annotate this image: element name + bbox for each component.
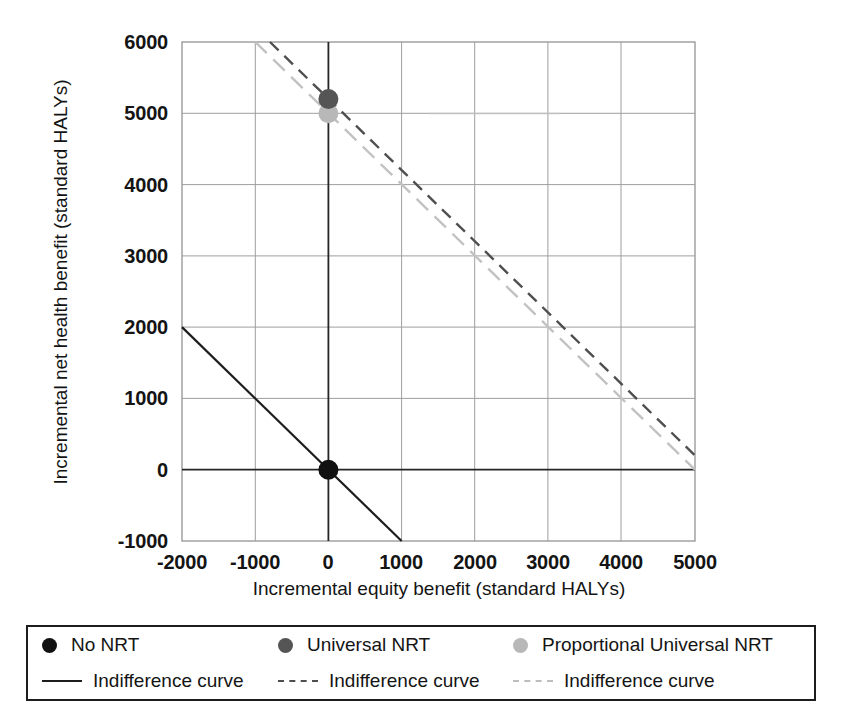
legend-marker-no-nrt-icon [42, 638, 57, 653]
xtick-label-minus1000: -1000 [230, 551, 280, 574]
ytick-label-0: 0 [98, 459, 168, 482]
legend-item-indifference-curve-dashed[interactable]: Indifference curve [278, 670, 513, 692]
xtick-label-2000: 2000 [453, 551, 497, 574]
legend-line-dashed-light-icon [513, 680, 553, 682]
ytick-label-4000: 4000 [98, 174, 168, 197]
legend-label-indifference-curve-dashed-light: Indifference curve [564, 670, 715, 692]
legend-label-indifference-curve-solid: Indifference curve [93, 670, 244, 692]
legend-row-markers: No NRT Universal NRT Proportional Univer… [28, 627, 814, 663]
xtick-label-3000: 3000 [526, 551, 570, 574]
ytick-label-6000: 6000 [98, 31, 168, 54]
plot-frame [182, 42, 695, 541]
xtick-label-4000: 4000 [599, 551, 643, 574]
xtick-label-minus2000: -2000 [157, 551, 207, 574]
ytick-label-1000: 1000 [98, 387, 168, 410]
chart-svg [0, 0, 848, 608]
xtick-label-0: 0 [323, 551, 334, 574]
chart-plot-area: 6000 5000 4000 3000 2000 1000 0 -1000 -2… [0, 0, 848, 608]
legend-line-solid-icon [42, 680, 82, 682]
data-point-universal-nrt[interactable] [318, 89, 338, 109]
legend-marker-proportional-universal-nrt-icon [513, 638, 528, 653]
legend-item-indifference-curve-solid[interactable]: Indifference curve [42, 670, 278, 692]
ytick-label-2000: 2000 [98, 316, 168, 339]
figure-root: 6000 5000 4000 3000 2000 1000 0 -1000 -2… [0, 0, 848, 718]
legend-item-proportional-universal-nrt[interactable]: Proportional Universal NRT [513, 634, 773, 656]
legend-row-curves: Indifference curve Indifference curve In… [28, 663, 814, 699]
ytick-label-3000: 3000 [98, 245, 168, 268]
legend-marker-universal-nrt-icon [278, 638, 293, 653]
chart-legend: No NRT Universal NRT Proportional Univer… [26, 625, 816, 701]
legend-label-proportional-universal-nrt: Proportional Universal NRT [542, 634, 773, 656]
y-axis-title: Incremental net health benefit (standard… [46, 12, 76, 552]
legend-label-no-nrt: No NRT [71, 634, 139, 656]
ytick-label-minus1000: -1000 [88, 530, 168, 553]
x-axis-title: Incremental equity benefit (standard HAL… [182, 578, 696, 600]
legend-item-indifference-curve-dashed-light[interactable]: Indifference curve [513, 670, 715, 692]
legend-item-universal-nrt[interactable]: Universal NRT [278, 634, 513, 656]
legend-item-no-nrt[interactable]: No NRT [42, 634, 278, 656]
xtick-label-1000: 1000 [379, 551, 423, 574]
xtick-label-5000: 5000 [673, 551, 717, 574]
legend-label-indifference-curve-dashed: Indifference curve [329, 670, 480, 692]
legend-line-dashed-icon [278, 680, 318, 682]
legend-label-universal-nrt: Universal NRT [307, 634, 430, 656]
ytick-label-5000: 5000 [98, 102, 168, 125]
data-point-no-nrt[interactable] [318, 460, 338, 480]
